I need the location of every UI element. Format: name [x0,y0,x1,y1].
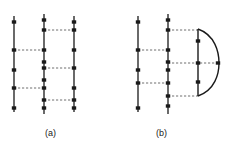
vertex-node [42,78,46,81]
vertex-node [196,39,200,42]
vertex-node [42,28,46,31]
vertex-node [196,80,200,83]
vertex-node [42,98,46,101]
vertex-node [12,68,16,71]
vertex-node [42,60,46,63]
vertex-node [12,106,16,109]
vertex-node [72,28,76,31]
panel-a-caption: (a) [45,128,56,138]
vertex-node [166,60,170,63]
vertex-node [42,48,46,51]
vertex-node [12,48,16,51]
vertex-node [166,94,170,97]
vertex-node [166,81,170,84]
vertex-node [72,86,76,89]
vertex-node [136,48,140,51]
vertex-node [166,18,170,21]
vertex-node [72,48,76,51]
vertex-node [42,18,46,21]
vertex-node [166,104,170,107]
vertex-node [72,98,76,101]
vertex-node [196,61,200,64]
panel-b-caption: (b) [156,128,167,138]
vertex-node [12,86,16,89]
feynman-diagram-figure [0,0,226,150]
vertex-node [136,68,140,71]
vertex-node [12,20,16,23]
vertex-node [166,28,170,31]
vertex-node [136,106,140,109]
vertex-node [136,81,140,84]
vertex-node [42,106,46,109]
vertex-node [166,48,170,51]
vertex-node [42,86,46,89]
vertex-node [72,66,76,69]
vertex-node [72,106,76,109]
vertex-node [42,66,46,69]
vertex-node [166,68,170,71]
figure-background [0,0,226,150]
vertex-node [136,20,140,23]
vertex-node [72,20,76,23]
vertex-node [216,61,220,64]
